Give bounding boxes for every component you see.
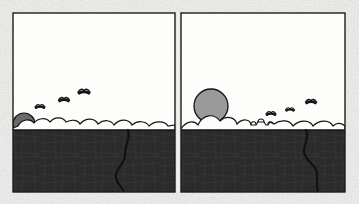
ground-right: [181, 130, 345, 192]
bird-icon: [286, 108, 295, 111]
landscape-sequence-drawing: [0, 0, 359, 204]
ground-left: [13, 130, 175, 192]
illustration-canvas: [0, 0, 359, 204]
panel-right: [181, 13, 345, 192]
bird-icon: [266, 112, 276, 115]
panel-left: [13, 13, 175, 192]
bird-icon: [59, 97, 70, 101]
bird-icon: [306, 99, 317, 103]
bird-icon: [35, 105, 45, 108]
bird-icon: [78, 89, 90, 93]
